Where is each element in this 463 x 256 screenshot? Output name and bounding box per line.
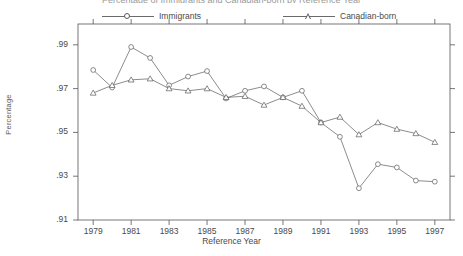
x-tick-label: 1989 [263, 226, 303, 236]
plot-area [0, 0, 463, 256]
data-point [375, 162, 380, 167]
data-point [205, 69, 210, 74]
data-point [261, 102, 267, 107]
data-point [204, 86, 210, 91]
data-point [337, 114, 343, 119]
data-point [299, 103, 305, 108]
y-tick-label: .91 [34, 214, 68, 224]
data-series-layer [90, 45, 437, 191]
data-point [300, 88, 305, 93]
y-axis-label: Percentage [4, 85, 13, 145]
data-point [262, 84, 267, 89]
chart-figure: Percentage of Immigrants and Canadian-bo… [0, 0, 463, 256]
data-point [147, 76, 153, 81]
data-point [413, 178, 418, 183]
data-point [394, 165, 399, 170]
y-tick-label: .99 [34, 39, 68, 49]
x-axis-label: Reference Year [0, 236, 463, 246]
x-tick-label: 1983 [149, 226, 189, 236]
data-point [90, 90, 96, 95]
x-tick-label: 1987 [225, 226, 265, 236]
data-point [432, 179, 437, 184]
data-point [91, 68, 96, 73]
data-point [338, 134, 343, 139]
y-tick-label: .95 [34, 126, 68, 136]
data-point [243, 88, 248, 93]
data-point [242, 93, 248, 98]
x-tick-label: 1991 [301, 226, 341, 236]
y-tick-label: .93 [34, 170, 68, 180]
x-tick-label: 1981 [111, 226, 151, 236]
axes [73, 19, 455, 225]
data-point [186, 74, 191, 79]
data-point [357, 186, 362, 191]
x-tick-label: 1997 [415, 226, 455, 236]
x-tick-label: 1993 [339, 226, 379, 236]
x-tick-label: 1979 [73, 226, 113, 236]
data-point [148, 56, 153, 61]
x-tick-label: 1995 [377, 226, 417, 236]
y-tick-label: .97 [34, 83, 68, 93]
data-point [432, 139, 438, 144]
data-point [375, 120, 381, 125]
x-tick-label: 1985 [187, 226, 227, 236]
data-point [129, 45, 134, 50]
